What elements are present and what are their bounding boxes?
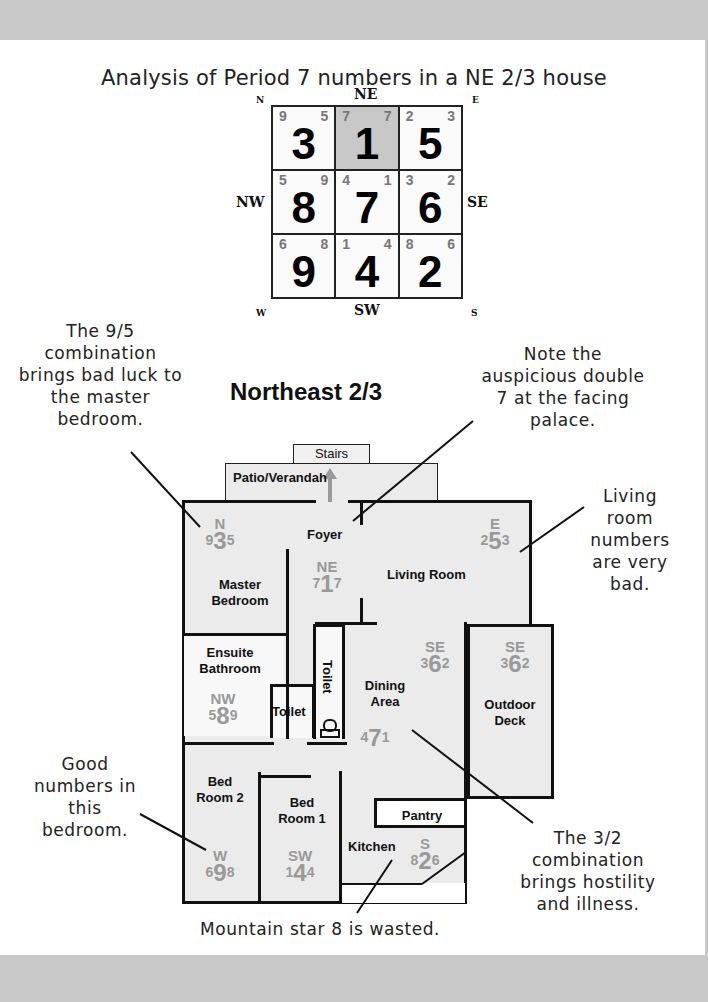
annotation-leader-lines (0, 0, 708, 1002)
